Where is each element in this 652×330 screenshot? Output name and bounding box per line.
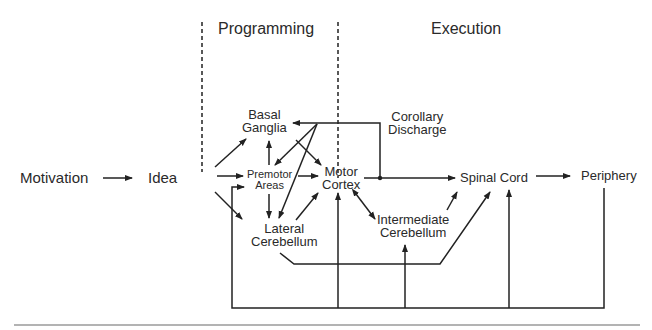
node-premotor-areas: Premotor Areas	[247, 169, 292, 191]
node-spinal-cord: Spinal Cord	[460, 171, 528, 184]
node-corollary-discharge: Corollary Discharge	[388, 110, 447, 136]
corollary-line-2: Discharge	[388, 123, 447, 136]
premotor-line-2: Areas	[247, 180, 292, 191]
node-idea: Idea	[148, 170, 177, 185]
node-motor-cortex: Motor Cortex	[322, 165, 360, 191]
node-lateral-cerebellum: Lateral Cerebellum	[251, 222, 317, 248]
node-basal-ganglia: Basal Ganglia	[242, 108, 287, 134]
motor-cortex-line-2: Cortex	[322, 178, 360, 191]
intermediate-line-2: Cerebellum	[377, 226, 449, 239]
programming-header: Programming	[218, 21, 314, 37]
node-motivation: Motivation	[20, 170, 88, 185]
lateral-line-2: Cerebellum	[251, 235, 317, 248]
execution-header: Execution	[431, 21, 501, 37]
node-intermediate-cerebellum: Intermediate Cerebellum	[377, 213, 449, 239]
basal-ganglia-line-2: Ganglia	[242, 121, 287, 134]
node-periphery: Periphery	[581, 169, 637, 182]
motor-control-diagram: Programming Execution Motivation Idea Ba…	[0, 0, 652, 330]
